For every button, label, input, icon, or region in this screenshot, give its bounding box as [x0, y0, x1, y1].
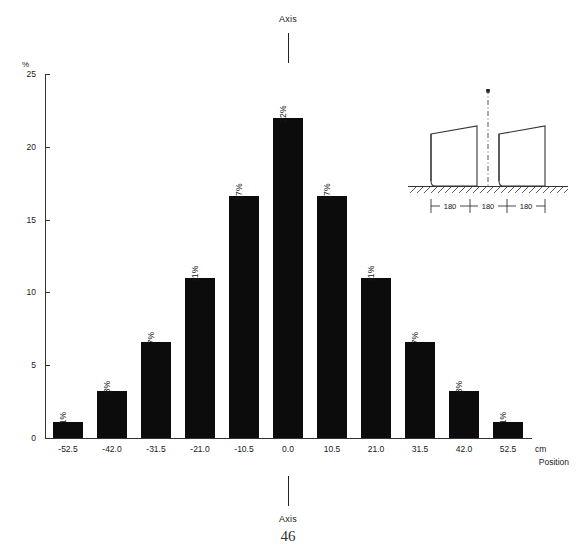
bar[interactable]: 1%: [53, 422, 83, 438]
bar[interactable]: 22%: [273, 118, 303, 438]
bar-slot: 11%: [178, 74, 222, 438]
bar-slot: 3%: [90, 74, 134, 438]
x-axis-line: [45, 438, 532, 439]
ground-hatching: [410, 187, 568, 193]
bar[interactable]: 3%: [97, 391, 127, 438]
y-axis-tick-label: 25: [12, 69, 36, 79]
bar-value-label: 1%: [58, 412, 68, 425]
bar-value-label: 7%: [410, 332, 420, 345]
bar[interactable]: 11%: [361, 278, 391, 438]
bar[interactable]: 17%: [229, 196, 259, 438]
bar[interactable]: 17%: [317, 196, 347, 438]
dimension-label-2-text: 180: [482, 202, 495, 211]
y-axis-tick-label: 10: [12, 287, 36, 297]
bar-value-label: 1%: [498, 412, 508, 425]
bar-slot: 11%: [354, 74, 398, 438]
axis-bottom-label: Axis: [0, 514, 576, 524]
bar-value-label: 3%: [102, 381, 112, 394]
bar-slot: 1%: [46, 74, 90, 438]
y-axis-tick-label: 5: [12, 360, 36, 370]
x-axis-tick-label: -42.0: [90, 444, 134, 454]
axis-bottom-rule: [288, 476, 289, 506]
y-axis-unit-label: %: [22, 60, 29, 69]
stall-dimension-diagram: 180 180 180 180 180 180: [404, 86, 572, 216]
bar-slot: 22%: [266, 74, 310, 438]
x-axis-tick-label: 10.5: [310, 444, 354, 454]
bar[interactable]: 3%: [449, 391, 479, 438]
axis-top-rule: [288, 33, 289, 63]
x-axis-tick-label: 0.0: [266, 444, 310, 454]
inset-svg: 180 180 180 180 180 180: [404, 86, 572, 216]
bar-slot: 17%: [222, 74, 266, 438]
centerline-marker: [486, 89, 490, 93]
bar-slot: 7%: [134, 74, 178, 438]
x-axis-tick-label: 52.5: [486, 444, 530, 454]
x-axis-tick-label: 21.0: [354, 444, 398, 454]
bar[interactable]: 1%: [493, 422, 523, 438]
x-axis-tick-label: -21.0: [178, 444, 222, 454]
y-axis-tick-label: 0: [12, 433, 36, 443]
x-axis-tick-label: -52.5: [46, 444, 90, 454]
x-axis-tick-label: -31.5: [134, 444, 178, 454]
bar-value-label: 11%: [190, 265, 200, 282]
axis-top-label: Axis: [0, 14, 576, 24]
bar-value-label: 3%: [454, 381, 464, 394]
x-axis-tick-label: -10.5: [222, 444, 266, 454]
bar[interactable]: 7%: [405, 342, 435, 438]
x-axis-tick-label: 42.0: [442, 444, 486, 454]
y-axis-tick-label: 20: [12, 142, 36, 152]
y-axis-tick: [45, 438, 50, 439]
x-axis-unit-label: cm: [535, 444, 546, 454]
figure-page: Axis % 0510152025 1%3%7%11%17%22%17%11%7…: [0, 0, 576, 556]
bar-value-label: 17%: [322, 184, 332, 202]
x-axis-tick-label: 31.5: [398, 444, 442, 454]
dimension-label-3-text: 180: [520, 202, 533, 211]
dimension-label-1-text: 180: [444, 202, 457, 211]
page-number: 46: [0, 528, 576, 545]
bar-value-label: 7%: [146, 332, 156, 345]
axis-marker-bottom: Axis: [0, 476, 576, 524]
y-axis-tick-label: 15: [12, 215, 36, 225]
x-axis-title: Position: [505, 457, 569, 467]
bar-slot: 17%: [310, 74, 354, 438]
bar-value-label: 17%: [234, 184, 244, 202]
axis-marker-top: Axis: [0, 14, 576, 63]
stall-left: [431, 126, 477, 186]
bar[interactable]: 11%: [185, 278, 215, 438]
bar-value-label: 22%: [278, 105, 288, 123]
bar-value-label: 11%: [366, 265, 376, 282]
bar[interactable]: 7%: [141, 342, 171, 438]
stall-right: [499, 126, 545, 186]
